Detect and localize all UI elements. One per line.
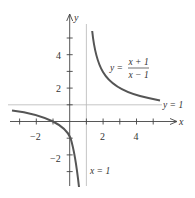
equation-label: y = x + 1 x − 1 bbox=[109, 57, 149, 80]
rational-function-graph: −2 2 4 4 2 −2 y x y = x + 1 x − 1 y = 1 … bbox=[0, 0, 195, 198]
y-tick-label-2: 2 bbox=[56, 83, 61, 94]
x-tick-label-4: 4 bbox=[134, 131, 139, 142]
x-axis bbox=[10, 119, 177, 125]
curve-right-branch bbox=[92, 31, 160, 101]
y-axis-label: y bbox=[73, 12, 79, 23]
y-axis bbox=[67, 14, 73, 186]
horizontal-asymptote-label: y = 1 bbox=[162, 100, 183, 110]
y-tick-label-4: 4 bbox=[56, 50, 61, 61]
vertical-asymptote-label: x = 1 bbox=[89, 166, 110, 176]
equation-numerator: x + 1 bbox=[128, 57, 149, 67]
x-axis-label: x bbox=[178, 116, 184, 127]
equation-denominator: x − 1 bbox=[128, 70, 149, 80]
equation-lhs: y = bbox=[109, 63, 123, 73]
y-tick-label-neg2: −2 bbox=[50, 153, 61, 164]
x-tick-label-neg2: −2 bbox=[30, 131, 41, 142]
x-tick-label-2: 2 bbox=[100, 131, 105, 142]
